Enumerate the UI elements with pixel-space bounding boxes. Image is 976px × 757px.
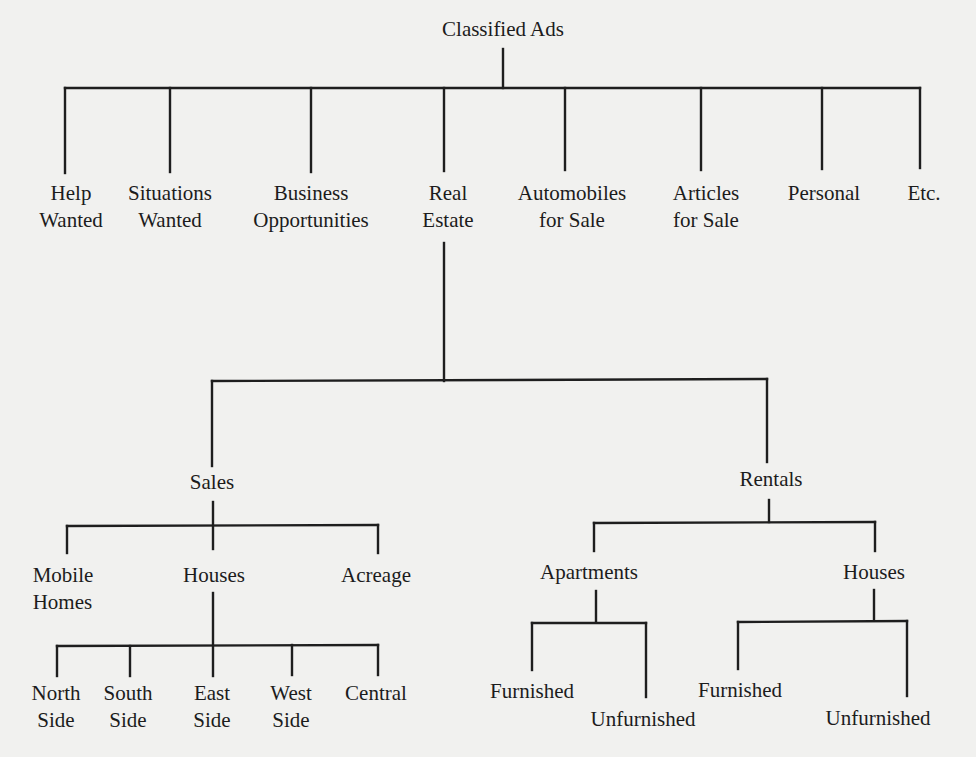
node-label-text: Articles [673,180,739,207]
node-label-text: Etc. [907,180,940,207]
node-sales-houses: Houses [183,562,245,589]
node-label-text: Opportunities [253,207,369,234]
node-label-text: Business [253,180,369,207]
node-label-text: Estate [422,207,473,234]
node-label-text: Rentals [740,466,803,493]
node-label-text: Side [270,707,311,734]
node-apartments-unfurnished: Unfurnished [591,706,696,733]
node-label-text: Automobiles [518,180,627,207]
node-label-text: Situations [128,180,212,207]
node-apartments: Apartments [540,559,638,586]
node-sales: Sales [190,469,234,496]
node-label-text: South [103,680,152,707]
node-label-text: Wanted [128,207,212,234]
node-label-text: for Sale [673,207,739,234]
node-houses-unfurnished: Unfurnished [826,705,931,732]
node-label-text: Real [422,180,473,207]
node-label-text: Houses [183,562,245,589]
node-west-side: WestSide [270,680,311,734]
node-rental-houses: Houses [843,559,905,586]
node-help-wanted: HelpWanted [39,180,103,234]
node-acreage: Acreage [341,562,411,589]
node-business-opportunities: BusinessOpportunities [253,180,369,234]
node-south-side: SouthSide [103,680,152,734]
node-label-text: Personal [788,180,860,207]
node-label-text: West [270,680,311,707]
node-label-text: Homes [33,589,94,616]
node-label-text: Central [345,680,407,707]
node-label-text: Mobile [33,562,94,589]
node-label-text: Furnished [490,678,574,705]
classified-ads-tree-diagram: Classified Ads HelpWanted SituationsWant… [0,0,976,757]
node-label-text: Side [32,707,81,734]
node-mobile-homes: MobileHomes [33,562,94,616]
node-label-text: East [193,680,230,707]
node-automobiles-for-sale: Automobilesfor Sale [518,180,627,234]
node-label-text: Classified Ads [442,16,564,43]
root-node-classified-ads: Classified Ads [442,16,564,43]
node-label-text: Houses [843,559,905,586]
node-label-text: Furnished [698,677,782,704]
node-personal: Personal [788,180,860,207]
node-label-text: for Sale [518,207,627,234]
node-north-side: NorthSide [32,680,81,734]
node-label-text: Help [39,180,103,207]
node-central: Central [345,680,407,707]
node-houses-furnished: Furnished [698,677,782,704]
node-apartments-furnished: Furnished [490,678,574,705]
node-label-text: Unfurnished [591,706,696,733]
node-label-text: Wanted [39,207,103,234]
node-rentals: Rentals [740,466,803,493]
node-etc: Etc. [907,180,940,207]
connector-lines [0,0,976,757]
node-articles-for-sale: Articlesfor Sale [673,180,739,234]
node-label-text: Acreage [341,562,411,589]
node-label-text: Sales [190,469,234,496]
node-east-side: EastSide [193,680,230,734]
node-label-text: Unfurnished [826,705,931,732]
node-situations-wanted: SituationsWanted [128,180,212,234]
node-label-text: North [32,680,81,707]
node-label-text: Side [103,707,152,734]
node-label-text: Side [193,707,230,734]
node-real-estate: RealEstate [422,180,473,234]
node-label-text: Apartments [540,559,638,586]
